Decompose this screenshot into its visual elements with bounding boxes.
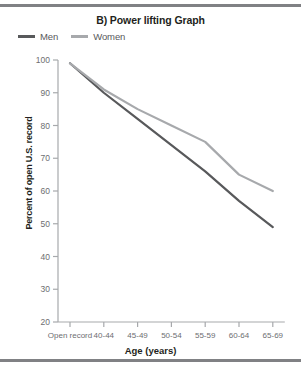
- line-chart: 2030405060708090100Open record40-4445-49…: [0, 0, 301, 367]
- x-tick-label: 40-44: [94, 331, 115, 340]
- y-tick-label: 20: [41, 317, 51, 327]
- y-axis-label: Percent of open U.S. record: [24, 88, 34, 258]
- y-tick-label: 50: [41, 219, 51, 229]
- x-tick-label: 65-69: [263, 331, 284, 340]
- y-tick-label: 90: [41, 88, 51, 98]
- series-line-women: [70, 63, 273, 191]
- bottom-divider: [0, 359, 301, 362]
- y-tick-label: 40: [41, 252, 51, 262]
- y-tick-label: 30: [41, 284, 51, 294]
- x-tick-label: Open record: [48, 331, 92, 340]
- y-tick-label: 60: [41, 186, 51, 196]
- x-tick-label: 55-59: [195, 331, 216, 340]
- x-tick-label: 45-49: [127, 331, 148, 340]
- y-tick-label: 80: [41, 121, 51, 131]
- y-tick-label: 100: [36, 55, 50, 65]
- x-axis-label: Age (years): [0, 345, 301, 356]
- plot-area: 2030405060708090100Open record40-4445-49…: [0, 0, 301, 367]
- x-tick-label: 60-64: [229, 331, 250, 340]
- y-tick-label: 70: [41, 153, 51, 163]
- x-tick-label: 50-54: [161, 331, 182, 340]
